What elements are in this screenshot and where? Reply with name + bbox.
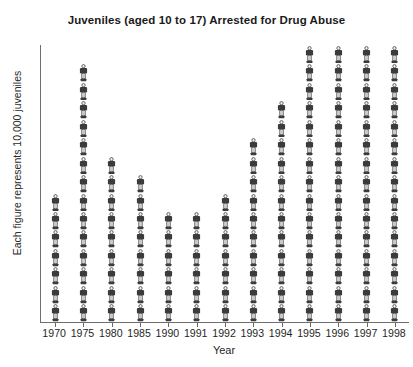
person-icon [304, 157, 315, 175]
person-icon [304, 64, 315, 82]
person-icon [304, 212, 315, 230]
x-tick-label: 1997 [351, 327, 379, 339]
x-tick-label: 1975 [68, 327, 96, 339]
person-icon [50, 286, 61, 304]
person-icon [389, 138, 400, 156]
person-icon [135, 304, 146, 322]
person-icon [78, 267, 89, 285]
person-icon [248, 286, 259, 304]
person-icon [78, 304, 89, 322]
person-icon [389, 230, 400, 248]
person-icon [389, 249, 400, 267]
person-icon [220, 267, 231, 285]
person-icon [389, 194, 400, 212]
person-icon [220, 212, 231, 230]
person-icon [276, 304, 287, 322]
pictograph-column-1991 [183, 45, 211, 322]
person-icon [163, 212, 174, 230]
person-icon [304, 286, 315, 304]
person-icon [304, 138, 315, 156]
y-axis-label: Each figure represents 10,000 juveniles [11, 71, 23, 255]
person-icon [163, 267, 174, 285]
person-icon [361, 194, 372, 212]
person-icon [361, 267, 372, 285]
person-icon [220, 194, 231, 212]
person-icon [106, 249, 117, 267]
x-tick-label: 1990 [153, 327, 181, 339]
x-tick-label: 1996 [323, 327, 351, 339]
person-icon [135, 249, 146, 267]
person-icon [361, 138, 372, 156]
person-icon [333, 101, 344, 119]
person-icon [333, 212, 344, 230]
person-icon [276, 286, 287, 304]
person-icon [50, 230, 61, 248]
x-tick-label: 1993 [238, 327, 266, 339]
person-icon [78, 249, 89, 267]
person-icon [361, 304, 372, 322]
person-icon [248, 175, 259, 193]
person-icon [389, 286, 400, 304]
person-icon [304, 175, 315, 193]
person-icon [135, 286, 146, 304]
person-icon [78, 120, 89, 138]
person-icon [304, 194, 315, 212]
person-icon [135, 230, 146, 248]
person-icon [248, 230, 259, 248]
person-icon [191, 304, 202, 322]
person-icon [78, 286, 89, 304]
person-icon [333, 157, 344, 175]
x-tick-label: 1998 [380, 327, 408, 339]
person-icon [78, 83, 89, 101]
person-icon [333, 304, 344, 322]
person-icon [333, 286, 344, 304]
person-icon [276, 230, 287, 248]
person-icon [50, 267, 61, 285]
person-icon [276, 138, 287, 156]
person-icon [135, 267, 146, 285]
person-icon [389, 83, 400, 101]
person-icon [220, 304, 231, 322]
person-icon [304, 304, 315, 322]
person-icon [389, 120, 400, 138]
person-icon [361, 175, 372, 193]
person-icon [361, 230, 372, 248]
person-icon [333, 138, 344, 156]
person-icon [304, 101, 315, 119]
person-icon [333, 83, 344, 101]
person-icon [78, 230, 89, 248]
person-icon [361, 120, 372, 138]
person-icon [333, 230, 344, 248]
person-icon [333, 120, 344, 138]
person-icon [135, 175, 146, 193]
person-icon [135, 212, 146, 230]
pictograph-columns [41, 45, 409, 322]
person-icon [106, 212, 117, 230]
person-icon [163, 286, 174, 304]
person-icon [106, 267, 117, 285]
person-icon [389, 101, 400, 119]
person-icon [106, 157, 117, 175]
x-tick-label: 1980 [97, 327, 125, 339]
x-tick-label: 1991 [182, 327, 210, 339]
person-icon [248, 249, 259, 267]
person-icon [220, 286, 231, 304]
person-icon [276, 120, 287, 138]
pictograph-column-1990 [154, 45, 182, 322]
person-icon [191, 267, 202, 285]
person-icon [333, 249, 344, 267]
pictograph-column-1985 [126, 45, 154, 322]
x-axis-label: Year [40, 344, 408, 356]
person-icon [78, 101, 89, 119]
person-icon [389, 46, 400, 64]
person-icon [50, 304, 61, 322]
person-icon [361, 101, 372, 119]
person-icon [389, 157, 400, 175]
person-icon [163, 304, 174, 322]
person-icon [191, 212, 202, 230]
person-icon [248, 194, 259, 212]
person-icon [191, 249, 202, 267]
person-icon [248, 157, 259, 175]
person-icon [389, 267, 400, 285]
x-tick-label: 1994 [267, 327, 295, 339]
